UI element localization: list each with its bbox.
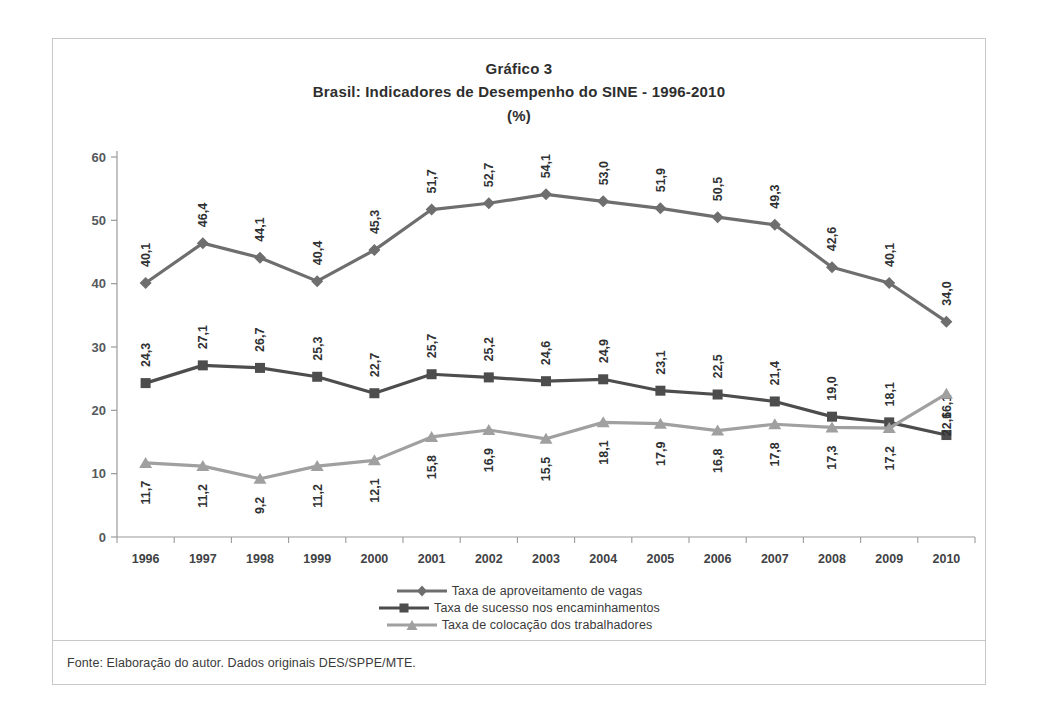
data-point-marker: [598, 374, 608, 384]
data-point-label: 51,9: [654, 168, 668, 192]
data-point-marker: [540, 188, 552, 200]
data-point-marker: [312, 372, 322, 382]
y-axis-tick-label: 30: [92, 340, 106, 355]
data-point-marker: [654, 202, 666, 214]
data-point-marker: [770, 396, 780, 406]
data-point-label: 40,1: [883, 243, 897, 267]
data-point-label: 18,1: [883, 382, 897, 406]
y-axis-tick-label: 50: [92, 213, 106, 228]
x-axis-tick-label: 2005: [646, 552, 674, 566]
data-point-label: 19,0: [826, 376, 840, 400]
data-point-marker: [369, 388, 379, 398]
x-axis-tick-label: 2000: [360, 552, 388, 566]
data-point-label: 21,4: [768, 361, 782, 385]
chart-series: 40,146,444,140,445,351,752,754,153,051,9…: [139, 154, 954, 328]
y-axis-tick-label: 40: [92, 276, 106, 291]
x-axis-tick-label: 2010: [932, 552, 960, 566]
data-point-label: 49,3: [768, 184, 782, 208]
data-point-label: 16,9: [482, 448, 496, 472]
data-point-label: 22,6: [940, 412, 954, 436]
data-point-label: 51,7: [425, 169, 439, 193]
x-axis-tick-label: 1998: [246, 552, 274, 566]
data-point-label: 16,8: [711, 449, 725, 473]
data-point-label: 11,7: [139, 481, 153, 505]
data-point-marker: [311, 275, 323, 287]
x-axis-tick-label: 1996: [132, 552, 160, 566]
y-axis-tick-label: 10: [92, 466, 106, 481]
chart-title-line-3: (%): [53, 104, 985, 127]
data-point-label: 25,7: [425, 334, 439, 358]
line-chart: 0102030405060199619971998199920002001200…: [53, 139, 987, 609]
data-point-marker: [483, 197, 495, 209]
data-point-marker: [484, 372, 494, 382]
data-point-label: 9,2: [254, 497, 268, 514]
chart-series: 11,711,29,211,212,115,816,915,518,117,91…: [139, 388, 954, 514]
data-point-marker: [141, 378, 151, 388]
data-point-label: 12,1: [368, 478, 382, 502]
legend-item-1[interactable]: Taxa de sucesso nos encaminhamentos: [378, 601, 660, 615]
data-point-label: 22,5: [711, 354, 725, 378]
data-point-label: 53,0: [597, 161, 611, 185]
x-axis-tick-label: 2001: [418, 552, 446, 566]
data-point-label: 25,2: [482, 337, 496, 361]
figure-frame: Gráfico 3 Brasil: Indicadores de Desempe…: [52, 38, 986, 685]
data-point-marker: [255, 363, 265, 373]
chart-title: Gráfico 3 Brasil: Indicadores de Desempe…: [53, 57, 985, 127]
data-point-label: 11,2: [311, 484, 325, 508]
legend-marker-square-icon: [378, 601, 430, 615]
series-line: [146, 194, 947, 321]
data-point-marker: [712, 211, 724, 223]
data-point-marker: [713, 390, 723, 400]
x-axis-tick-label: 1997: [189, 552, 217, 566]
legend-label-2: Taxa de colocação dos trabalhadores: [442, 618, 653, 632]
data-point-label: 17,2: [883, 446, 897, 470]
x-axis-tick-label: 2006: [704, 552, 732, 566]
data-point-label: 44,1: [254, 217, 268, 241]
y-axis-tick-label: 60: [92, 150, 106, 165]
data-point-label: 42,6: [826, 227, 840, 251]
legend-item-2[interactable]: Taxa de colocação dos trabalhadores: [386, 618, 653, 632]
data-point-label: 22,7: [368, 353, 382, 377]
source-divider: [53, 640, 985, 641]
x-axis-tick-label: 2009: [875, 552, 903, 566]
legend-marker-diamond-icon: [396, 584, 448, 598]
x-axis-tick-label: 2003: [532, 552, 560, 566]
data-point-marker: [827, 412, 837, 422]
data-point-label: 15,8: [425, 455, 439, 479]
data-point-marker: [427, 369, 437, 379]
legend-label-1: Taxa de sucesso nos encaminhamentos: [434, 601, 660, 615]
x-axis-tick-label: 2007: [761, 552, 789, 566]
data-point-label: 45,3: [368, 210, 382, 234]
data-point-label: 40,4: [311, 241, 325, 265]
y-axis-tick-label: 0: [99, 530, 106, 545]
chart-title-line-2: Brasil: Indicadores de Desempenho do SIN…: [53, 80, 985, 103]
data-point-marker: [198, 360, 208, 370]
data-point-label: 52,7: [482, 163, 496, 187]
data-point-label: 46,4: [196, 203, 210, 227]
data-point-label: 26,7: [254, 328, 268, 352]
chart-title-line-1: Gráfico 3: [53, 57, 985, 80]
legend-item-0[interactable]: Taxa de aproveitamento de vagas: [396, 584, 643, 598]
data-point-label: 24,9: [597, 339, 611, 363]
source-note: Fonte: Elaboração do autor. Dados origin…: [67, 656, 416, 670]
data-point-label: 11,2: [196, 484, 210, 508]
x-axis-tick-label: 2008: [818, 552, 846, 566]
data-point-label: 27,1: [196, 325, 210, 349]
x-axis-tick-label: 2004: [589, 552, 617, 566]
chart-plot-area: 0102030405060199619971998199920002001200…: [53, 139, 987, 609]
data-point-label: 15,5: [540, 457, 554, 481]
data-point-label: 17,9: [654, 442, 668, 466]
data-point-label: 24,3: [139, 343, 153, 367]
legend-label-0: Taxa de aproveitamento de vagas: [452, 584, 643, 598]
data-point-label: 18,1: [597, 440, 611, 464]
data-point-label: 17,3: [826, 445, 840, 469]
data-point-label: 34,0: [940, 281, 954, 305]
legend-marker-triangle-icon: [386, 618, 438, 632]
data-point-marker: [597, 195, 609, 207]
y-axis-tick-label: 20: [92, 403, 106, 418]
data-point-label: 40,1: [139, 243, 153, 267]
chart-legend: Taxa de aproveitamento de vagas Taxa de …: [53, 584, 985, 632]
x-axis-tick-label: 2002: [475, 552, 503, 566]
data-point-marker: [541, 376, 551, 386]
data-point-marker: [940, 388, 953, 399]
